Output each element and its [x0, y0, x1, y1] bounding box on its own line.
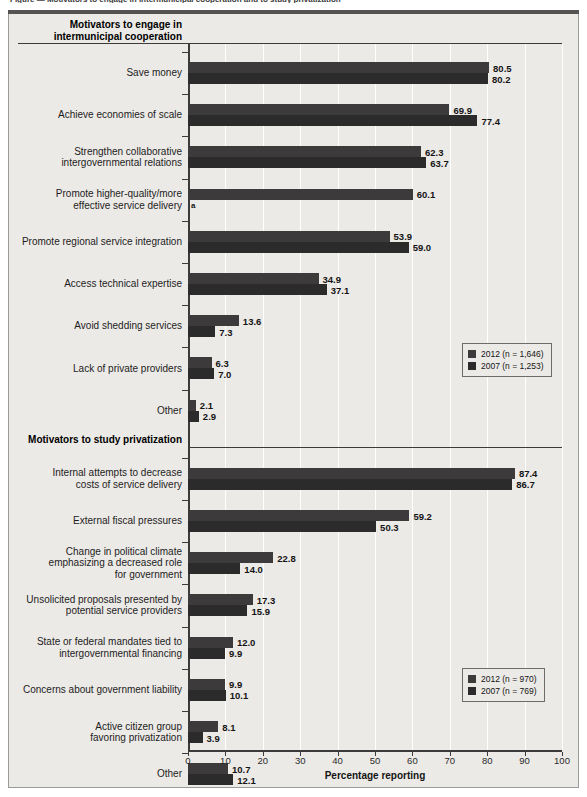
category-label-line: effective service delivery: [18, 200, 182, 212]
category-label-line: potential service providers: [18, 605, 182, 617]
category-label-line: Avoid shedding services: [18, 320, 182, 332]
category-label: Strengthen collaborativeintergovernmenta…: [18, 146, 182, 169]
x-tick-label-90: 90: [510, 755, 540, 766]
category-label: Promote higher-quality/moreeffective ser…: [18, 188, 182, 211]
y-tick: [182, 584, 188, 585]
bar-value-label: 50.3: [380, 522, 399, 533]
y-tick: [182, 305, 188, 306]
gridline-100: [562, 44, 563, 750]
legend-label: 2007 (n = 1,253): [481, 360, 544, 372]
bar-2012-12: [188, 637, 233, 648]
legend-panel-0: 2012 (n = 1,646)2007 (n = 1,253): [462, 343, 552, 377]
bar-value-label: 9.9: [229, 679, 242, 690]
section-heading-0: Motivators to engage inintermunicipal co…: [18, 19, 182, 42]
category-label-line: State or federal mandates tied to: [18, 636, 182, 648]
section-heading-1: Motivators to study privatization: [18, 434, 182, 446]
bar-2007-50.3: [188, 521, 376, 532]
bar-2012-9.9: [188, 679, 225, 690]
category-label: Access technical expertise: [18, 278, 182, 290]
bar-2012-22.8: [188, 552, 273, 563]
category-label: Achieve economies of scale: [18, 109, 182, 121]
gridline-90: [525, 44, 526, 750]
bar-2007-86.7: [188, 479, 512, 490]
y-tick: [182, 347, 188, 348]
bar-2007-7.3: [188, 326, 215, 337]
category-label: Other: [18, 405, 182, 417]
x-tick-label-0: 0: [173, 755, 203, 766]
footnote-marker: a: [191, 201, 195, 210]
category-label-line: costs of service delivery: [18, 479, 182, 491]
bar-value-label: 2.9: [203, 411, 216, 422]
bar-value-label: 17.3: [257, 595, 276, 606]
category-label-line: Promote higher-quality/more: [18, 188, 182, 200]
bar-2012-34.9: [188, 273, 319, 284]
bar-value-label: 10.1: [230, 690, 249, 701]
y-tick: [182, 179, 188, 180]
legend-swatch-2012: [468, 350, 476, 358]
bar-value-label: 34.9: [323, 274, 342, 285]
section-divider-0: [188, 43, 562, 44]
category-label-line: Other: [18, 768, 182, 780]
category-label-line: Access technical expertise: [18, 278, 182, 290]
bar-value-label: 12.0: [237, 637, 256, 648]
x-tick-label-50: 50: [360, 755, 390, 766]
category-label: Internal attempts to decreasecosts of se…: [18, 467, 182, 490]
bar-2007-59: [188, 242, 409, 253]
bar-2007-63.7: [188, 157, 426, 168]
bar-2012-60.1: [188, 189, 413, 200]
legend-item: 2007 (n = 769): [468, 685, 537, 697]
category-label: Promote regional service integration: [18, 236, 182, 248]
bar-2007-7: [188, 368, 214, 379]
legend-label: 2012 (n = 970): [481, 673, 537, 685]
bar-value-label: 37.1: [331, 285, 350, 296]
bar-value-label: 7.0: [218, 369, 231, 380]
category-label: Active citizen groupfavoring privatizati…: [18, 721, 182, 744]
figure-cut-title: Figure — Motivators to engage in intermu…: [10, 0, 570, 3]
bar-2012-13.6: [188, 315, 239, 326]
bar-2012-53.9: [188, 231, 390, 242]
y-tick: [182, 390, 188, 391]
x-tick-label-20: 20: [248, 755, 278, 766]
category-label-line: Concerns about government liability: [18, 684, 182, 696]
bar-value-label: 62.3: [425, 147, 444, 158]
category-label-line: Internal attempts to decrease: [18, 467, 182, 479]
bar-value-label: 15.9: [251, 606, 270, 617]
section-heading-line: Motivators to study privatization: [18, 434, 182, 446]
bar-value-label: 9.9: [229, 648, 242, 659]
bar-2007-3.9: [188, 732, 203, 743]
category-label-line: Unsolicited proposals presented by: [18, 594, 182, 606]
category-label-line: Save money: [18, 67, 182, 79]
bar-2012-80.5: [188, 62, 489, 73]
section-divider-left-0: [18, 43, 188, 44]
legend-swatch-2012: [468, 675, 476, 683]
bar-2007-80.2: [188, 73, 488, 84]
x-tick-label-40: 40: [323, 755, 353, 766]
y-tick: [182, 52, 188, 53]
category-label-line: Strengthen collaborative: [18, 146, 182, 158]
legend-panel-1: 2012 (n = 970)2007 (n = 769): [462, 668, 545, 702]
bar-value-label: 86.7: [516, 479, 535, 490]
bar-2012-62.3: [188, 146, 421, 157]
bar-value-label: 63.7: [430, 158, 449, 169]
x-tick-label-70: 70: [435, 755, 465, 766]
category-label: State or federal mandates tied tointergo…: [18, 636, 182, 659]
bar-value-label: 60.1: [417, 189, 436, 200]
x-tick-label-80: 80: [472, 755, 502, 766]
figure-top-rule: [8, 10, 579, 14]
bar-value-label: 6.3: [216, 358, 229, 369]
bar-value-label: 13.6: [243, 316, 262, 327]
bar-2007-15.9: [188, 605, 247, 616]
bar-value-label: 69.9: [453, 105, 472, 116]
y-tick: [182, 500, 188, 501]
y-tick: [182, 458, 188, 459]
category-label: External fiscal pressures: [18, 515, 182, 527]
bar-2012-6.3: [188, 357, 212, 368]
category-label: Concerns about government liability: [18, 684, 182, 696]
category-label-line: intergovernmental financing: [18, 648, 182, 660]
category-label-line: Lack of private providers: [18, 363, 182, 375]
bar-2007-14: [188, 563, 240, 574]
section-heading-line: intermunicipal cooperation: [18, 31, 182, 43]
category-label-line: intergovernmental relations: [18, 157, 182, 169]
bar-value-label: 59.2: [413, 511, 432, 522]
y-tick: [182, 669, 188, 670]
